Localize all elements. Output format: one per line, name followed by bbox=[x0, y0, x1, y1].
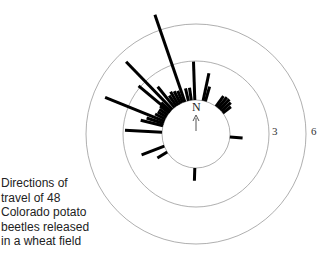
direction-bar bbox=[125, 130, 162, 132]
direction-bar bbox=[126, 62, 172, 110]
direction-bar bbox=[194, 62, 195, 100]
figure-caption: Directions of travel of 48 Colorado pota… bbox=[1, 176, 121, 249]
ring-label-6: 6 bbox=[311, 125, 317, 137]
caption-line: in a wheat field bbox=[1, 234, 121, 249]
direction-bar bbox=[157, 152, 167, 158]
direction-bar bbox=[186, 88, 189, 101]
caption-line: Directions of bbox=[1, 176, 121, 191]
north-label: N bbox=[192, 100, 201, 115]
caption-line: beetles released bbox=[1, 220, 121, 235]
direction-bar bbox=[190, 88, 192, 101]
direction-bar bbox=[230, 137, 243, 138]
caption-line: Colorado potato bbox=[1, 205, 121, 220]
ring-label-3: 3 bbox=[272, 125, 278, 137]
direction-bar bbox=[142, 146, 165, 155]
caption-line: travel of 48 bbox=[1, 191, 121, 206]
